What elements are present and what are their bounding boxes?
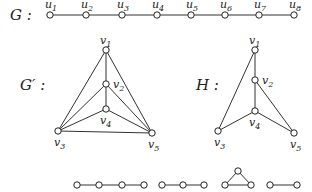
vertex-H-v2 (252, 77, 258, 83)
vertex-path-4-2 (119, 182, 125, 188)
edge-H-v2-v5 (255, 80, 294, 133)
label-H-v5: v5 (290, 138, 301, 153)
vertex-edge-1 (294, 182, 300, 188)
label-G_prime-v5: v5 (148, 138, 159, 153)
graph-H-label: H : (195, 76, 219, 94)
vertex-H-v5 (291, 130, 297, 136)
vertex-edge-0 (267, 182, 273, 188)
label-G-u5: u5 (186, 0, 198, 13)
vertex-triangle-1 (222, 182, 228, 188)
label-G_prime-v1: v1 (100, 34, 111, 49)
label-H-v2: v2 (262, 74, 273, 89)
graph-G-prime-label: G′ : (20, 76, 45, 94)
vertex-path-4-0 (74, 182, 80, 188)
graph-diagram: G : G′ : H : u1u2u3u4u5u6u7u8v1v2v3v4v5v… (0, 0, 312, 192)
vertices-layer (47, 12, 300, 188)
vertex-G_prime-v2 (103, 81, 109, 87)
label-G_prime-v4: v4 (100, 114, 111, 129)
vertex-path-3-0 (159, 182, 165, 188)
label-G-u6: u6 (220, 0, 232, 13)
vertex-triangle-2 (248, 182, 254, 188)
label-G-u3: u3 (117, 0, 129, 13)
label-G-u7: u7 (254, 0, 267, 13)
label-H-v1: v1 (249, 34, 260, 49)
label-G-u2: u2 (81, 0, 93, 13)
vertex-triangle-0 (235, 168, 241, 174)
graph-G-label: G : (10, 6, 32, 24)
vertex-path-4-1 (96, 182, 102, 188)
label-H-v3: v3 (214, 136, 225, 151)
vertex-H-v4 (252, 108, 258, 114)
vertex-path-4-3 (141, 182, 147, 188)
vertex-G_prime-v3 (55, 128, 61, 134)
label-H-v4: v4 (249, 116, 260, 131)
edge-H-v4-v5 (255, 111, 294, 133)
vertex-path-3-2 (201, 182, 207, 188)
edge-G_prime-v3-v5 (58, 131, 152, 133)
label-G-u1: u1 (45, 0, 57, 13)
vertex-H-v3 (215, 128, 221, 134)
label-G_prime-v3: v3 (54, 136, 65, 151)
vertex-G_prime-v4 (103, 106, 109, 112)
vertex-labels-layer: u1u2u3u4u5u6u7u8v1v2v3v4v5v1v2v3v4v5 (45, 0, 301, 153)
vertex-G_prime-v5 (149, 130, 155, 136)
label-G-u8: u8 (289, 0, 301, 13)
edge-G_prime-v4-v3 (58, 109, 106, 131)
vertex-path-3-1 (180, 182, 186, 188)
label-G-u4: u4 (152, 0, 164, 13)
